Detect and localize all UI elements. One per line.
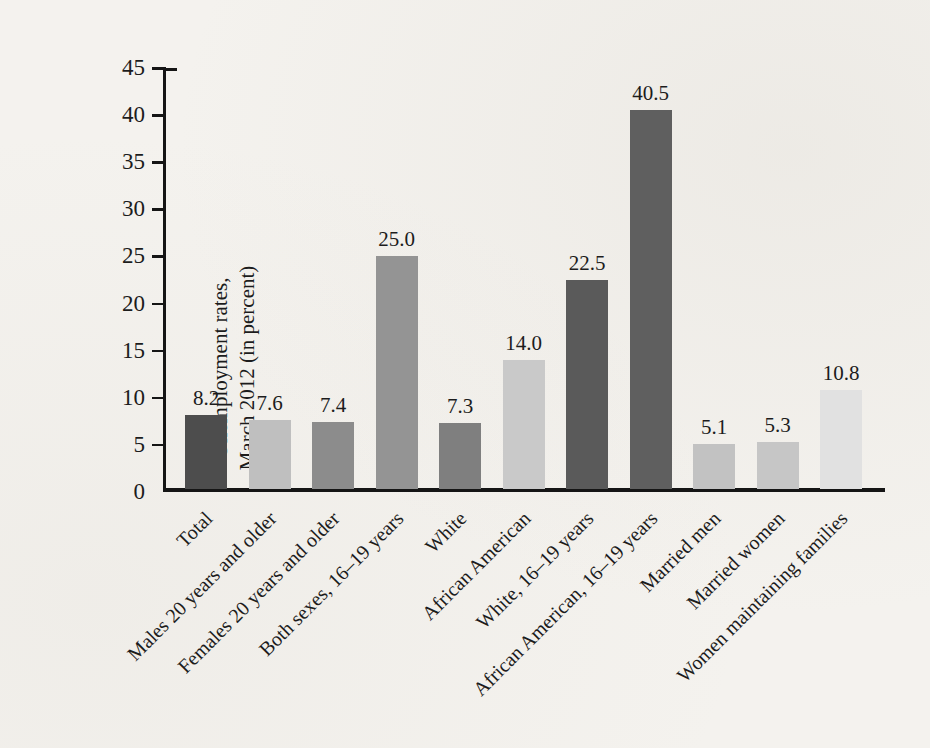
bar-value-label-3: 25.0 — [355, 226, 439, 252]
y-tick-20 — [152, 303, 166, 306]
y-tick-label-45: 45 — [85, 55, 145, 81]
y-tick-label-15: 15 — [85, 338, 145, 364]
y-tick-15 — [152, 350, 166, 353]
bar-value-label-5: 14.0 — [482, 330, 566, 356]
category-label-8: Married men — [490, 507, 725, 742]
y-tick-5 — [152, 444, 166, 447]
y-tick-label-30: 30 — [85, 196, 145, 222]
bar-2 — [312, 422, 354, 489]
category-label-9: Married women — [553, 507, 788, 742]
bar-3 — [376, 256, 418, 489]
bar-4 — [439, 423, 481, 489]
bar-value-label-2: 7.4 — [291, 392, 375, 418]
bar-value-label-4: 7.3 — [418, 393, 502, 419]
y-tick-45 — [152, 67, 166, 70]
y-tick-label-0: 0 — [85, 479, 145, 505]
y-tick-label-35: 35 — [85, 149, 145, 175]
category-label-10: Women maintaining families — [617, 507, 852, 742]
y-tick-40 — [152, 114, 166, 117]
bar-chart-plot-area: Unemployment rates, March 2012 (in perce… — [163, 68, 885, 492]
category-label-1: Males 20 years and older — [45, 507, 280, 742]
y-tick-label-10: 10 — [85, 385, 145, 411]
bar-7 — [630, 110, 672, 489]
category-label-4: White — [236, 507, 471, 742]
y-tick-label-20: 20 — [85, 291, 145, 317]
y-tick-label-40: 40 — [85, 102, 145, 128]
bar-0 — [185, 415, 227, 489]
category-label-7: African American, 16–19 years — [426, 507, 661, 742]
bar-10 — [820, 390, 862, 489]
bar-8 — [693, 444, 735, 489]
bar-5 — [503, 360, 545, 489]
bar-value-label-7: 40.5 — [609, 80, 693, 106]
category-label-5: African American — [299, 507, 534, 742]
scanned-book-page: Unemployment rates, March 2012 (in perce… — [0, 0, 930, 748]
y-tick-25 — [152, 255, 166, 258]
bar-9 — [757, 442, 799, 489]
y-tick-35 — [152, 161, 166, 164]
y-tick-label-5: 5 — [85, 432, 145, 458]
bar-value-label-6: 22.5 — [545, 250, 629, 276]
category-label-0: Total — [0, 507, 217, 742]
y-axis-line — [163, 68, 166, 492]
bar-1 — [249, 420, 291, 489]
bar-value-label-9: 5.3 — [736, 412, 820, 438]
category-label-6: White, 16–19 years — [363, 507, 598, 742]
y-tick-label-25: 25 — [85, 243, 145, 269]
bar-value-label-10: 10.8 — [799, 360, 883, 386]
bar-6 — [566, 280, 608, 489]
y-tick-30 — [152, 208, 166, 211]
